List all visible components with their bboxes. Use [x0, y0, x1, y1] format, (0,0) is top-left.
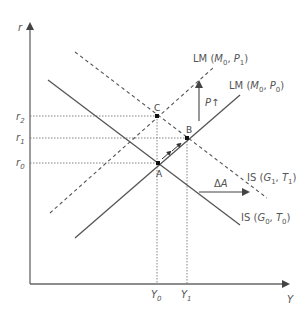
r1-label: r1 [16, 132, 25, 146]
point-a-label: A [156, 169, 163, 179]
islm-diagram: r Y r2 r1 r0 Y0 Y1 C [0, 0, 308, 313]
point-b-marker [185, 136, 189, 140]
lm-p0-label: LM (M0, P0) [229, 80, 284, 94]
output-labels: Y0 Y1 [151, 289, 192, 303]
demand-shift-annotation: ΔA [199, 178, 248, 192]
price-rise-label: P↑ [205, 97, 219, 108]
x-axis-label: Y [287, 294, 294, 305]
output-guides [157, 116, 187, 284]
interest-rate-labels: r2 r1 r0 [16, 111, 25, 171]
curve-labels: LM (M0, P1) LM (M0, P0) IS (G1, T1) IS (… [193, 53, 297, 226]
is-curve-g1-t1 [75, 52, 267, 198]
point-c-marker [155, 114, 159, 118]
y-axis-label: r [18, 22, 23, 33]
is-curves [48, 52, 267, 225]
y0-label: Y0 [151, 289, 162, 303]
lm-curve-m0-p1 [50, 68, 213, 213]
point-a-marker [156, 161, 160, 165]
demand-shift-label: ΔA [214, 178, 228, 189]
r2-label: r2 [16, 111, 25, 125]
interest-rate-guides [30, 116, 187, 163]
point-b-label: B [186, 125, 192, 135]
path-a-to-b [162, 144, 180, 159]
point-c-label: C [154, 103, 160, 113]
y1-label: Y1 [181, 289, 192, 303]
is-g0-label: IS (G0, T0) [241, 212, 291, 226]
is-g1-label: IS (G1, T1) [247, 172, 297, 186]
a-to-b-arrow-1 [162, 152, 170, 159]
r0-label: r0 [16, 157, 25, 171]
lm-p1-label: LM (M0, P1) [193, 53, 248, 67]
